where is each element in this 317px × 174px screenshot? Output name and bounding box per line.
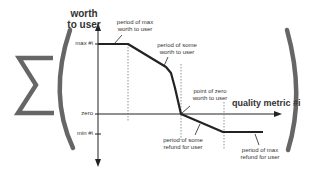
annotation-max-refund: period of max refund for user	[235, 147, 285, 161]
worth-curve	[98, 44, 263, 132]
y-axis-title: worth to user	[66, 8, 102, 30]
pointer-some-refund	[195, 124, 200, 135]
x-axis-arrow-icon	[274, 111, 282, 117]
annotation-some-worth-line2: worth to user	[152, 49, 202, 56]
annotation-max-refund-line2: refund for user	[235, 154, 285, 161]
annotation-zero-worth-line1: point of zero	[185, 88, 235, 95]
annotation-some-refund-line2: refund for user	[158, 144, 208, 151]
right-paren-icon	[287, 30, 296, 150]
pointer-max-refund	[255, 134, 259, 145]
pointer-max-worth	[114, 35, 122, 44]
tick-label-zero: zero	[60, 110, 93, 117]
annotation-max-refund-line1: period of max	[235, 147, 285, 154]
annotation-some-worth: period of some worth to user	[152, 42, 202, 56]
y-axis-title-line2: to user	[66, 19, 102, 30]
annotation-max-worth-line1: period of max	[110, 19, 160, 26]
annotation-some-worth-line1: period of some	[152, 42, 202, 49]
sigma-icon	[18, 58, 54, 113]
tick-label-min: min #i	[60, 130, 93, 137]
annotation-some-refund: period of some refund for user	[158, 137, 208, 151]
annotation-max-worth-line2: worth to user	[110, 26, 160, 33]
y-axis-arrow-down-icon	[95, 159, 101, 167]
pointer-zero-worth	[182, 106, 190, 113]
annotation-zero-worth-line2: worth to user	[185, 95, 235, 102]
annotation-max-worth: period of max worth to user	[110, 19, 160, 33]
y-axis-title-line1: worth	[66, 8, 102, 19]
annotation-some-refund-line1: period of some	[158, 137, 208, 144]
annotation-zero-worth: point of zero worth to user	[185, 88, 235, 102]
x-axis-title: quality metric #i	[232, 98, 312, 109]
pointer-some-worth	[164, 57, 168, 66]
tick-label-max: max #i	[60, 40, 93, 47]
